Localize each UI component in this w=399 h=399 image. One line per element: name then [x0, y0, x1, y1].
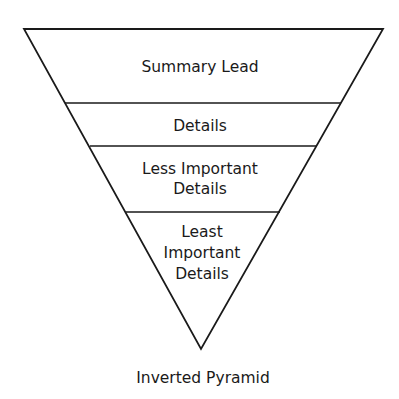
inverted-pyramid-diagram: Summary Lead Details Less Important Deta… [0, 0, 399, 399]
layer-details: Details [173, 117, 227, 135]
layer-label-line-3: Details [175, 265, 229, 283]
layer-label-line-1: Least [181, 223, 223, 241]
layer-label-line-2: Important [164, 244, 241, 262]
layer-label-line-2: Details [173, 180, 227, 198]
diagram-caption: Inverted Pyramid [136, 369, 270, 387]
layer-summary-lead: Summary Lead [141, 58, 258, 76]
layer-label: Details [173, 117, 227, 135]
layer-label: Summary Lead [141, 58, 258, 76]
layer-label-line-1: Less Important [142, 160, 258, 178]
